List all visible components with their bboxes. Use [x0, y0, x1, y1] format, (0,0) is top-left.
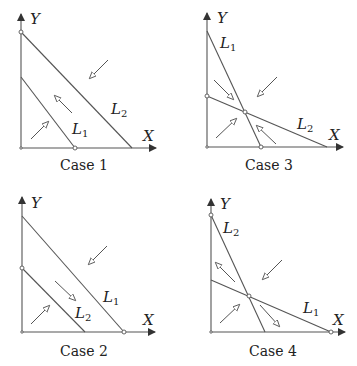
- direction-arrow: [90, 60, 108, 78]
- x-axis-label: X: [142, 127, 155, 145]
- direction-arrow: [31, 122, 48, 139]
- y-axis-label: Y: [217, 9, 229, 27]
- direction-arrow: [214, 80, 233, 99]
- label-l1: L1: [102, 288, 119, 307]
- intercept-point: [329, 330, 333, 334]
- direction-arrow: [263, 260, 282, 279]
- intercept-point: [73, 146, 77, 150]
- caption-case-3: Case 3: [245, 157, 293, 173]
- y-axis-label: Y: [30, 10, 42, 28]
- direction-arrow: [258, 77, 277, 96]
- panel-case-1: Y X L1 L2 Case 1: [19, 10, 156, 173]
- direction-arrow: [216, 263, 235, 282]
- intercept-point: [205, 94, 209, 98]
- direction-arrow: [89, 246, 107, 264]
- label-l2: L2: [74, 304, 91, 323]
- origin-point: [206, 146, 208, 148]
- direction-arrow: [216, 119, 236, 138]
- intercept-point: [122, 330, 126, 334]
- label-l2: L2: [110, 100, 127, 119]
- line-l1: [21, 77, 75, 148]
- label-l1: L1: [302, 299, 319, 318]
- origin-point: [210, 331, 212, 333]
- intercept-point: [19, 30, 23, 34]
- panel-case-4: Y X L2 L1 Case 4: [209, 195, 345, 359]
- direction-arrow: [31, 306, 49, 324]
- direction-arrow: [55, 281, 75, 300]
- intercept-point: [259, 145, 263, 149]
- y-axis-label: Y: [220, 195, 232, 213]
- caption-case-1: Case 1: [60, 157, 108, 173]
- direction-arrow: [220, 305, 239, 323]
- origin-point: [21, 331, 23, 333]
- caption-case-2: Case 2: [60, 343, 108, 359]
- direction-arrow: [257, 126, 276, 144]
- y-axis-label: Y: [31, 194, 43, 212]
- caption-case-4: Case 4: [249, 343, 297, 359]
- equilibrium-point: [247, 294, 251, 298]
- x-axis-label: X: [142, 311, 155, 329]
- direction-arrow: [55, 96, 72, 113]
- intercept-point: [20, 266, 24, 270]
- label-l2: L2: [296, 115, 313, 134]
- panel-case-3: Y X L1 L2 Case 3: [205, 9, 343, 173]
- four-case-diagram: Y X L1 L2 Case 1 Y X L1 L2 Case 3: [0, 0, 357, 366]
- intercept-point: [209, 213, 213, 217]
- equilibrium-point: [243, 110, 247, 114]
- panel-case-2: Y X L1 L2 Case 2: [20, 194, 155, 359]
- label-l2: L2: [222, 219, 239, 238]
- line-l1: [211, 280, 331, 332]
- line-l1: [22, 216, 124, 332]
- origin-point: [20, 147, 22, 149]
- label-l1: L1: [219, 34, 236, 53]
- line-l2: [207, 96, 327, 147]
- x-axis-label: X: [332, 311, 345, 329]
- label-l1: L1: [71, 120, 88, 139]
- x-axis-label: X: [328, 126, 341, 144]
